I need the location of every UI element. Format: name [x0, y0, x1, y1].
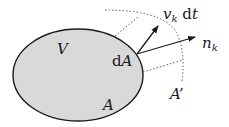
control-volume-region: [13, 29, 143, 121]
surface-element-label: dA: [112, 54, 132, 69]
diagram-canvas: V dA A A’ vk dt nk: [0, 0, 229, 127]
lower-dotted-connector: [143, 60, 183, 72]
normal-vector-arrow: [137, 37, 195, 54]
displaced-surface-label: A’: [170, 87, 183, 102]
normal-label: nk: [202, 36, 218, 53]
volume-label: V: [57, 42, 68, 57]
normal-n: n: [202, 34, 212, 52]
velocity-vector-arrow: [137, 26, 158, 54]
surface-element-d: d: [112, 52, 122, 70]
upper-dotted-connector: [115, 17, 138, 36]
surface-element-A: A: [122, 52, 133, 70]
surface-label: A: [103, 98, 114, 113]
velocity-dt-d: d: [178, 5, 192, 23]
velocity-dt-t: t: [192, 5, 198, 23]
normal-subscript: k: [212, 42, 218, 53]
velocity-label: vk dt: [163, 7, 198, 24]
